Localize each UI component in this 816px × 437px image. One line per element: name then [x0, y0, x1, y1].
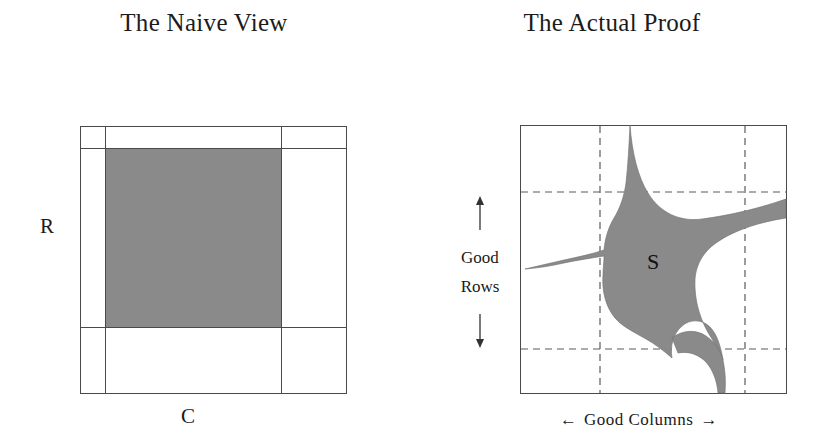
- actual-proof-figure: S: [520, 125, 787, 394]
- good-rows-word-bottom: Rows: [461, 277, 500, 296]
- right-arrow-icon: →: [700, 410, 717, 429]
- naive-row-axis-label: R: [40, 214, 54, 238]
- proof-region-s-shape: [525, 125, 786, 360]
- naive-view-figure: [80, 126, 347, 394]
- panel-title-naive-view: The Naive View: [0, 8, 408, 38]
- panel-title-actual-proof: The Actual Proof: [408, 8, 816, 38]
- naive-shaded-rectangle: [106, 149, 281, 327]
- good-columns-label: Good Columns: [584, 410, 693, 429]
- good-rows-word-top: Good: [461, 248, 499, 267]
- naive-vertical-line-left: [105, 126, 106, 394]
- panel-naive-view: The Naive View R C: [0, 0, 408, 437]
- naive-horizontal-line-bottom: [80, 327, 347, 328]
- down-arrow-icon: [473, 314, 487, 348]
- naive-vertical-line-right: [281, 126, 282, 394]
- good-rows-annotation: Good Rows: [444, 196, 516, 348]
- naive-horizontal-line-top: [80, 148, 347, 149]
- left-arrow-icon: ←: [560, 410, 577, 429]
- proof-blob-svg: S: [520, 125, 787, 394]
- good-columns-annotation: ← Good Columns →: [560, 410, 717, 429]
- naive-column-axis-label: C: [181, 404, 195, 428]
- up-arrow-icon: [473, 196, 487, 230]
- proof-region-label-s: S: [647, 249, 659, 274]
- good-rows-text-group: Good Rows: [461, 248, 500, 296]
